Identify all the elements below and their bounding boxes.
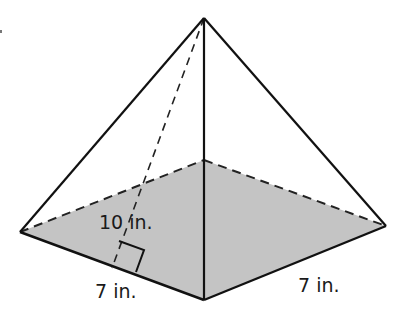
pyramid-figure (0, 0, 401, 311)
pyramid-diagram: 10 in. 7 in. 7 in. (0, 0, 401, 311)
base-edge-right-label: 7 in. (298, 276, 340, 295)
stray-mark (0, 30, 2, 33)
slant-height-label: 10 in. (99, 213, 153, 232)
base-edge-left-label: 7 in. (95, 282, 137, 301)
